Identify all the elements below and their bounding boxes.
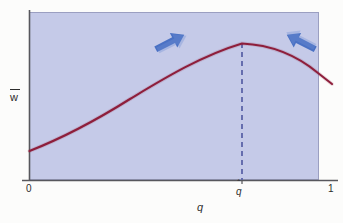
y-axis-label-text: w	[10, 91, 18, 103]
adaptive-landscape-plot	[0, 0, 343, 223]
y-axis-label: w	[10, 89, 20, 103]
x-axis-label: q	[197, 201, 203, 213]
x-tick-label-equilibrium: ˆ q	[236, 182, 242, 197]
figure-container: FIGURE 27.11 w q	[0, 0, 343, 223]
overbar-glyph	[10, 89, 20, 90]
x-tick-label-1: 1	[328, 183, 334, 194]
x-tick-label-equilibrium-text: q	[236, 186, 242, 197]
x-tick-label-0: 0	[26, 183, 32, 194]
